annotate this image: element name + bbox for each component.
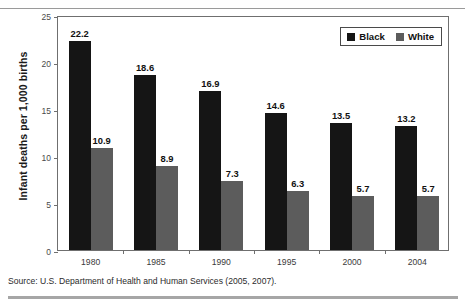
x-axis-tick-label-1985: 1985 (146, 257, 165, 267)
bar-value-label: 14.6 (267, 100, 285, 111)
bar-black-2004[interactable]: 13.2 (395, 126, 417, 250)
y-axis-tick-mark (54, 111, 58, 112)
bar-white-1990[interactable]: 7.3 (221, 181, 243, 250)
bar-value-label: 18.6 (136, 62, 154, 73)
top-divider-rule (0, 8, 465, 9)
bar-value-label: 10.9 (93, 135, 111, 146)
x-axis-tick-label-1990: 1990 (212, 257, 231, 267)
y-axis-tick-mark (54, 158, 58, 159)
bar-value-label: 7.3 (226, 168, 239, 179)
bar-black-1985[interactable]: 18.6 (134, 75, 156, 250)
source-note: Source: U.S. Department of Health and Hu… (8, 276, 276, 286)
y-axis-tick-mark (54, 64, 58, 65)
bar-black-1980[interactable]: 22.2 (69, 41, 91, 250)
bar-white-2000[interactable]: 5.7 (352, 196, 374, 250)
bar-value-label: 16.9 (201, 78, 219, 89)
legend-label-white: White (408, 31, 434, 42)
plot-inner: 051015202522.210.9198018.68.9198516.97.3… (58, 17, 448, 250)
x-axis-tick-label-1980: 1980 (81, 257, 100, 267)
bar-value-label: 5.7 (422, 183, 435, 194)
bar-white-1980[interactable]: 10.9 (91, 148, 113, 250)
bar-value-label: 6.3 (291, 178, 304, 189)
legend-item-white[interactable]: White (396, 31, 434, 42)
x-axis-tick-mark (123, 250, 124, 254)
plot-area: 051015202522.210.9198018.68.9198516.97.3… (57, 16, 449, 251)
x-axis-tick-label-1995: 1995 (277, 257, 296, 267)
x-axis-tick-mark (319, 250, 320, 254)
legend-label-black: Black (359, 31, 385, 42)
bar-white-1995[interactable]: 6.3 (287, 191, 309, 250)
y-axis-tick-mark (54, 252, 58, 253)
bar-value-label: 13.5 (332, 110, 350, 121)
x-axis-tick-mark (385, 250, 386, 254)
x-axis-tick-label-2000: 2000 (342, 257, 361, 267)
y-axis-tick-mark (54, 17, 58, 18)
figure-container: Infant deaths per 1,000 births 051015202… (0, 0, 465, 304)
bar-white-1985[interactable]: 8.9 (156, 166, 178, 250)
chart-legend: Black White (340, 27, 442, 46)
bar-value-label: 13.2 (397, 113, 415, 124)
bar-black-2000[interactable]: 13.5 (330, 123, 352, 250)
bar-value-label: 5.7 (356, 183, 369, 194)
legend-swatch-white-icon (396, 33, 404, 41)
bar-value-label: 22.2 (71, 28, 89, 39)
bottom-divider-rule (8, 296, 458, 299)
legend-item-black[interactable]: Black (347, 31, 385, 42)
legend-swatch-black-icon (347, 33, 355, 41)
x-axis-tick-label-2004: 2004 (408, 257, 427, 267)
bar-black-1990[interactable]: 16.9 (199, 91, 221, 250)
x-axis-tick-mark (189, 250, 190, 254)
y-axis-tick-mark (54, 205, 58, 206)
x-axis-tick-mark (254, 250, 255, 254)
bar-value-label: 8.9 (160, 153, 173, 164)
bar-black-1995[interactable]: 14.6 (265, 113, 287, 250)
bar-white-2004[interactable]: 5.7 (417, 196, 439, 250)
